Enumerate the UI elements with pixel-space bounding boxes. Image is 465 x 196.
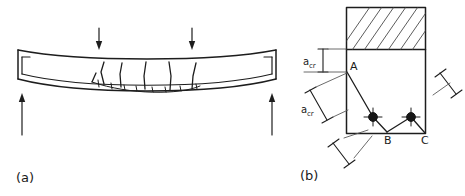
dimension-acr-vertical: a cr xyxy=(303,49,346,72)
dimension-acr-vertical-subscript: cr xyxy=(309,62,316,70)
beam-reinforcement-cage xyxy=(22,57,272,85)
compression-zone-hatching xyxy=(336,4,444,56)
point-load-right xyxy=(189,28,195,50)
figure-canvas: (a) xyxy=(0,0,465,196)
support-reaction-left xyxy=(19,93,25,135)
crack-path-abc xyxy=(347,72,425,133)
support-reaction-right xyxy=(269,93,275,135)
point-load-left xyxy=(96,28,102,50)
figure-root: (a) xyxy=(0,0,465,196)
dimension-acr-inclined: a cr xyxy=(301,73,348,123)
caption-panel-b: (b) xyxy=(300,168,318,183)
bracket-bottom-left xyxy=(328,130,372,168)
point-label-c: C xyxy=(421,134,429,147)
panel-b-group: A B C a cr a cr xyxy=(300,4,462,183)
bracket-right xyxy=(433,69,462,98)
dimension-acr-inclined-subscript: cr xyxy=(307,110,314,118)
point-label-b: B xyxy=(384,134,392,147)
caption-panel-a: (a) xyxy=(16,170,34,185)
panel-a-group: (a) xyxy=(16,28,276,185)
point-label-a: A xyxy=(350,60,358,73)
